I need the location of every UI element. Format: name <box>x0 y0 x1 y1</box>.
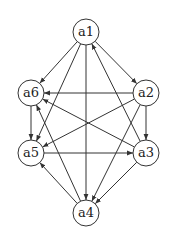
edges <box>31 41 146 204</box>
node-a6: a6 <box>18 80 44 106</box>
node-a2: a2 <box>133 80 159 106</box>
node-label: a4 <box>78 205 94 220</box>
node-a3: a3 <box>133 140 159 166</box>
node-label: a6 <box>23 85 39 100</box>
node-a5: a5 <box>18 140 44 166</box>
node-label: a5 <box>23 145 39 160</box>
node-a1: a1 <box>73 19 99 45</box>
node-a4: a4 <box>73 200 99 226</box>
directed-graph: a1a2a3a4a5a6 <box>0 0 171 243</box>
node-label: a1 <box>78 24 94 39</box>
node-label: a3 <box>138 145 154 160</box>
node-label: a2 <box>138 85 154 100</box>
edge-a4-a5 <box>40 163 77 204</box>
